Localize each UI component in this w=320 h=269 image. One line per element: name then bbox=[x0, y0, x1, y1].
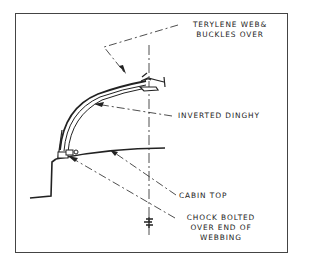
label-cabin-top: CABIN TOP bbox=[179, 191, 227, 201]
label-line: WEBBING bbox=[176, 233, 266, 243]
label-line: BUCKLES OVER bbox=[180, 30, 280, 40]
label-line: CHOCK BOLTED bbox=[176, 213, 266, 223]
centerline-symbol-icon bbox=[144, 217, 153, 228]
cabin-side bbox=[30, 159, 56, 198]
label-terylene-webbing: TERYLENE WEB& BUCKLES OVER bbox=[180, 20, 280, 40]
label-inverted-dinghy: INVERTED DINGHY bbox=[178, 111, 260, 121]
label-text: INVERTED DINGHY bbox=[178, 111, 260, 120]
inverted-dinghy-hull bbox=[58, 81, 146, 158]
arrowheads bbox=[68, 65, 126, 162]
chock-detail bbox=[58, 150, 78, 158]
label-chock-bolted: CHOCK BOLTED OVER END OF WEBBING bbox=[176, 213, 266, 243]
label-text: CABIN TOP bbox=[179, 191, 227, 200]
label-line: TERYLENE WEB& bbox=[180, 20, 280, 30]
leader-lines bbox=[70, 25, 178, 218]
label-line: OVER END OF bbox=[176, 223, 266, 233]
